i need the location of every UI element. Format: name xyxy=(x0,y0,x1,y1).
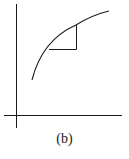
concave-curve xyxy=(32,11,109,80)
figure-caption: (b) xyxy=(0,131,129,147)
